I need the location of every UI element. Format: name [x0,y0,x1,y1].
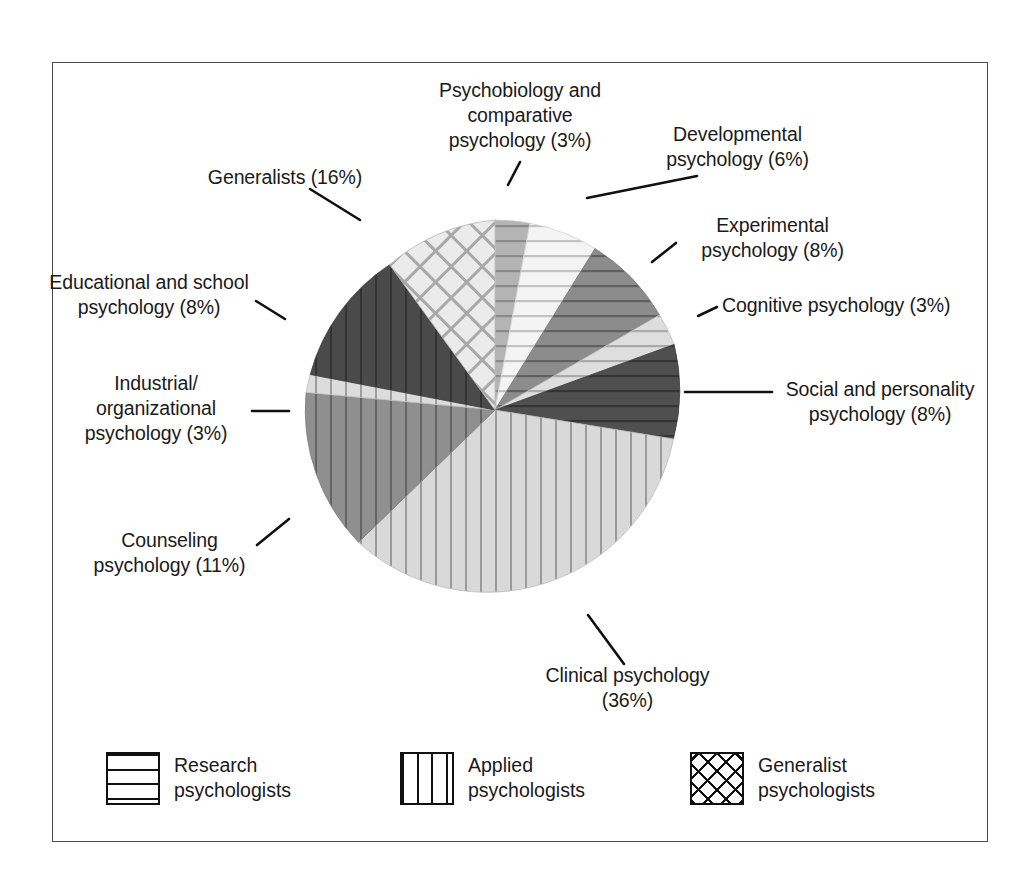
legend-entry-research-psychologists[interactable]: Research psychologists [106,752,291,805]
pie-slices-group [305,220,680,592]
slice-label-cognitive-psychology: Cognitive psychology (3%) [722,293,987,318]
legend-swatch-cross-hatch-icon [690,752,744,805]
slice-label-social-and-personality-psychology: Social and personality psychology (8%) [770,377,990,427]
leader-line-cognitive [698,307,717,316]
slice-label-psychobiology-and-comparative-psychology: Psychobiology and comparative psychology… [410,78,630,153]
slice-label-experimental-psychology: Experimental psychology (8%) [675,213,870,263]
legend-label-research-psychologists: Research psychologists [174,752,291,803]
leader-line-experimental [652,243,676,262]
legend-entry-applied-psychologists[interactable]: Applied psychologists [400,752,585,805]
slice-label-developmental-psychology: Developmental psychology (6%) [630,122,845,172]
leader-line-generalists [310,189,360,220]
legend-swatch-vertical-lines-icon [400,752,454,805]
pie-chart-figure: Psychobiology and comparative psychology… [0,0,1029,876]
leader-line-educational [256,301,285,319]
leader-line-psychobiology [508,162,520,185]
legend-entry-generalist-psychologists[interactable]: Generalist psychologists [690,752,875,805]
legend-swatch-horizontal-lines-icon [106,752,160,805]
slice-label-clinical-psychology: Clinical psychology (36%) [520,663,735,713]
legend-label-generalist-psychologists: Generalist psychologists [758,752,875,803]
slice-label-counseling-psychology: Counseling psychology (11%) [77,528,262,578]
leader-line-developmental [587,176,697,198]
slice-label-generalists: Generalists (16%) [185,165,385,190]
legend-label-applied-psychologists: Applied psychologists [468,752,585,803]
slice-label-educational-and-school-psychology: Educational and school psychology (8%) [40,270,258,320]
leader-line-clinical [588,615,624,664]
slice-label-industrial-organizational-psychology: Industrial/ organizational psychology (3… [60,371,252,446]
chart-legend: Research psychologists Applied psycholog… [100,752,960,822]
